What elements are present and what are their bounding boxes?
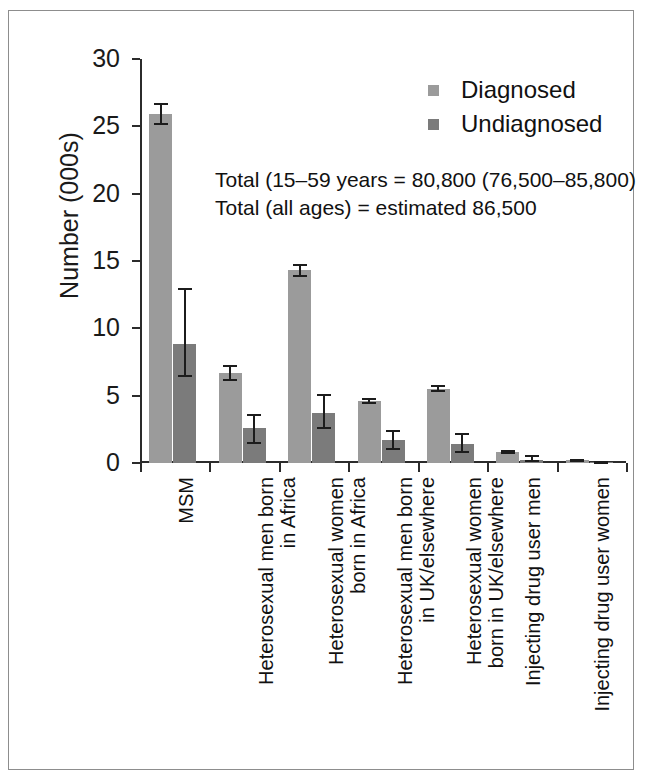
- x-axis-tick: [418, 463, 420, 472]
- y-axis-tick: [132, 125, 140, 127]
- legend-swatch-undiagnosed: [428, 119, 439, 130]
- x-axis-category-label: Injecting drug user women: [591, 477, 613, 777]
- legend-swatch-diagnosed: [428, 85, 439, 96]
- y-axis-tick: [132, 260, 140, 262]
- legend-label: Diagnosed: [461, 78, 576, 102]
- error-bar-cap: [455, 451, 469, 453]
- category-label-line-1: Heterosexual women: [463, 477, 485, 665]
- legend-item: Undiagnosed: [428, 107, 602, 141]
- annotation-line-2: Total (all ages) = estimated 86,500: [215, 194, 636, 222]
- error-bar-cap: [525, 460, 539, 462]
- chart-legend: DiagnosedUndiagnosed: [428, 73, 602, 141]
- bar-diagnosed: [219, 373, 242, 463]
- error-bar-line: [253, 414, 255, 444]
- bar-diagnosed: [427, 389, 450, 463]
- error-bar-cap: [386, 430, 400, 432]
- error-bar-cap: [501, 452, 515, 454]
- error-bar-cap: [317, 394, 331, 396]
- error-bar-cap: [431, 385, 445, 387]
- x-axis-tick: [557, 463, 559, 472]
- error-bar-cap: [455, 433, 469, 435]
- x-axis-category-label: Heterosexual womenborn in Africa: [325, 477, 369, 777]
- category-label-line-1: Injecting drug user men: [522, 477, 544, 686]
- y-axis-tick: [132, 193, 140, 195]
- category-label-line-1: Heterosexual men born: [255, 477, 277, 685]
- category-label-line-2: in UK/elsewhere: [416, 477, 438, 777]
- y-axis-tick: [132, 327, 140, 329]
- error-bar-cap: [293, 275, 307, 277]
- annotation-line-1: Total (15–59 years = 80,800 (76,500–85,8…: [215, 166, 636, 194]
- y-axis-tick: [132, 462, 140, 464]
- y-axis-tick-label: 5: [42, 383, 120, 408]
- x-axis-category-label: Heterosexual men bornin Africa: [255, 477, 299, 777]
- category-label-line-2: born in UK/elsewhere: [485, 477, 507, 777]
- error-bar-cap: [525, 455, 539, 457]
- error-bar-cap: [247, 442, 261, 444]
- chart-annotation: Total (15–59 years = 80,800 (76,500–85,8…: [215, 166, 636, 222]
- y-axis-tick: [132, 58, 140, 60]
- error-bar-line: [160, 103, 162, 125]
- y-axis-tick-label: 0: [42, 450, 120, 475]
- legend-label: Undiagnosed: [461, 112, 602, 136]
- legend-item: Diagnosed: [428, 73, 602, 107]
- category-label-line-1: Heterosexual women: [325, 477, 347, 665]
- x-axis-category-label: MSM: [175, 477, 197, 777]
- x-axis-tick: [279, 463, 281, 472]
- x-axis-category-label: Heterosexual womenborn in UK/elsewhere: [463, 477, 507, 777]
- y-axis-tick: [132, 395, 140, 397]
- error-bar-cap: [154, 103, 168, 105]
- error-bar-line: [323, 394, 325, 429]
- error-bar-line: [184, 288, 186, 377]
- error-bar-cap: [223, 365, 237, 367]
- category-label-line-1: Heterosexual men born: [394, 477, 416, 685]
- error-bar-cap: [178, 288, 192, 290]
- x-axis-tick: [209, 463, 211, 472]
- x-axis-tick: [140, 463, 142, 472]
- error-bar-cap: [594, 461, 608, 463]
- error-bar-cap: [362, 398, 376, 400]
- category-label-line-2: born in Africa: [347, 477, 369, 777]
- bar-diagnosed: [149, 114, 172, 463]
- figure-canvas: 051015202530 Number (000s) MSMHeterosexu…: [0, 0, 647, 784]
- bar-diagnosed: [288, 270, 311, 463]
- error-bar-cap: [317, 427, 331, 429]
- x-axis-tick: [487, 463, 489, 472]
- error-bar-cap: [223, 379, 237, 381]
- y-axis-title: Number (000s): [55, 96, 84, 336]
- x-axis-tick: [626, 463, 628, 472]
- x-axis-category-label: Injecting drug user men: [522, 477, 544, 777]
- category-label-line-1: Injecting drug user women: [591, 477, 613, 712]
- x-axis-tick: [348, 463, 350, 472]
- error-bar-cap: [570, 460, 584, 462]
- category-label-line-1: MSM: [175, 477, 197, 524]
- error-bar-cap: [386, 448, 400, 450]
- bar-diagnosed: [358, 401, 381, 463]
- error-bar-cap: [362, 402, 376, 404]
- error-bar-cap: [431, 390, 445, 392]
- error-bar-cap: [247, 414, 261, 416]
- error-bar-cap: [154, 123, 168, 125]
- error-bar-cap: [293, 264, 307, 266]
- figure-border: 051015202530 Number (000s) MSMHeterosexu…: [8, 10, 634, 770]
- error-bar-cap: [178, 375, 192, 377]
- y-axis-tick-label: 30: [42, 46, 120, 71]
- error-bar-line: [392, 430, 394, 450]
- category-label-line-2: in Africa: [277, 477, 299, 777]
- y-axis-line: [140, 59, 142, 463]
- x-axis-category-label: Heterosexual men bornin UK/elsewhere: [394, 477, 438, 777]
